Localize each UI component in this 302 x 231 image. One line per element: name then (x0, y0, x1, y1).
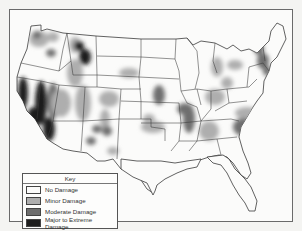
damage-region-colorado (100, 109, 110, 129)
florida-outline (207, 155, 257, 211)
damage-region-washington-spot (46, 49, 56, 57)
damage-region-colorado (99, 91, 119, 107)
legend-swatch-none (26, 186, 41, 194)
gulf-coast (121, 159, 201, 195)
legend-swatch-minor (26, 197, 41, 205)
legend-title: Key (23, 174, 117, 184)
damage-region-great-lakes (211, 57, 223, 77)
damage-region-ohio-valley (221, 77, 233, 89)
legend-label: Moderate Damage (45, 208, 96, 215)
damage-region-washington-spot (33, 31, 41, 39)
damage-region-alabama-georgia (199, 121, 219, 141)
damage-region-southeast (233, 117, 261, 137)
damage-region-idaho-utah (67, 59, 83, 87)
legend-label: No Damage (45, 186, 78, 193)
damage-region-idaho-utah (75, 85, 91, 121)
damage-region-idaho-utah (51, 89, 71, 117)
damage-region-ohio-valley (205, 89, 225, 105)
legend-label: Major to Extreme Damage (45, 216, 117, 230)
legend-item-none: No Damage (23, 184, 117, 195)
legend-label: Minor Damage (45, 197, 86, 204)
damage-region-arizona-south (92, 125, 102, 133)
damage-region-new-england (254, 43, 264, 55)
legend-swatch-extreme (26, 219, 41, 227)
damage-region-arizona-south (86, 137, 96, 145)
legend-item-minor: Minor Damage (23, 195, 117, 206)
damage-region-new-england (263, 66, 271, 76)
damage-region-pacific-northwest (47, 32, 59, 42)
damage-region-new-mexico (102, 126, 112, 136)
legend: Key No Damage Minor Damage Moderate Dama… (22, 173, 118, 229)
map-frame: Key No Damage Minor Damage Moderate Dama… (9, 9, 293, 222)
legend-swatch-moderate (26, 208, 41, 216)
damage-region-montana-west (74, 41, 84, 51)
damage-region-california-coast (18, 77, 28, 109)
damage-region-montana-west (79, 49, 91, 65)
damage-region-great-lakes (227, 60, 243, 70)
legend-item-extreme: Major to Extreme Damage (23, 217, 117, 228)
